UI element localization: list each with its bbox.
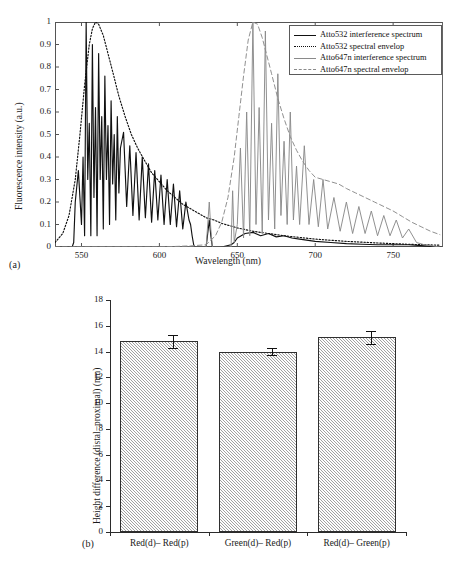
error-cap-0-upper: [168, 335, 178, 336]
panel-a-y-tick: 0.9: [0, 39, 51, 49]
panel-b-y-tick: 2: [0, 500, 103, 510]
bar-0: [120, 341, 198, 532]
panel-b-x-axis-line: [110, 532, 406, 533]
panel-b-y-tickmark: [106, 300, 110, 301]
panel-b-y-tick: 6: [0, 449, 103, 459]
panel-b-y-tick: 4: [0, 474, 103, 484]
panel-a-label: (a): [9, 259, 20, 270]
panel-a-y-tick: 0.8: [0, 61, 51, 71]
panel-a-x-tick: 550: [67, 250, 95, 260]
panel-b-label: (b): [82, 538, 94, 549]
panel-a-y-axis-title: Fluorescence intensity (a.u.): [14, 102, 24, 210]
bar-2: [318, 337, 396, 532]
panel-b-y-tickmark: [106, 326, 110, 327]
panel-a-y-tick: 0.2: [0, 196, 51, 206]
panel-a-y-tick: 0.7: [0, 84, 51, 94]
panel-b-x-tickmark: [209, 532, 210, 536]
bar-1: [219, 352, 297, 532]
error-bar-2: [371, 331, 372, 344]
panel-a-spectra: 00.10.20.30.40.50.60.70.80.91 5506006507…: [0, 0, 456, 272]
panel-b-category-label-1: Green(d)– Red(p): [209, 538, 308, 548]
error-bar-0: [173, 335, 174, 348]
legend-line-solid-gray-icon: [294, 53, 316, 63]
legend-line-dashed-gray-icon: [294, 64, 316, 74]
legend-label-atto647n-envelop: Atto647n spectral envelop: [320, 64, 408, 75]
panel-b-y-tickmark: [106, 403, 110, 404]
legend-item-atto532-envelop: Atto532 spectral envelop: [294, 41, 437, 53]
panel-b-y-tickmark: [106, 506, 110, 507]
panel-b-y-tick: 14: [0, 346, 103, 356]
error-cap-1-upper: [267, 348, 277, 349]
error-cap-2-upper: [366, 331, 376, 332]
panel-a-x-tick: 700: [301, 250, 329, 260]
panel-b-plot-area: [110, 300, 406, 532]
error-cap-2-lower: [366, 344, 376, 345]
panel-a-y-tick: 0.4: [0, 151, 51, 161]
panel-b-bar-chart: 024681012141618 Red(d)– Red(p)Green(d)– …: [0, 272, 456, 568]
panel-a-y-tick: 0.3: [0, 174, 51, 184]
panel-b-y-tickmark: [106, 455, 110, 456]
error-cap-0-lower: [168, 348, 178, 349]
panel-b-y-tick: 18: [0, 294, 103, 304]
panel-b-x-tickmark: [110, 532, 111, 536]
error-cap-1-lower: [267, 355, 277, 356]
panel-b-x-tickmark: [406, 532, 407, 536]
legend-label-atto532-interference: Atto532 interference spectrum: [320, 29, 422, 40]
panel-a-y-tick: 0.5: [0, 129, 51, 139]
legend-item-atto532-interference: Atto532 interference spectrum: [294, 29, 437, 41]
panel-b-category-label-0: Red(d)– Red(p): [110, 538, 209, 548]
panel-a-y-tick: 1: [0, 16, 51, 26]
legend-item-atto647n-interference: Atto647n interference spectrum: [294, 52, 437, 64]
panel-a-x-tick: 600: [145, 250, 173, 260]
panel-a-x-tick: 750: [379, 250, 407, 260]
panel-b-y-tickmark: [106, 377, 110, 378]
panel-a-y-tick: 0.1: [0, 219, 51, 229]
panel-b-x-tickmark: [307, 532, 308, 536]
error-bar-1: [272, 348, 273, 356]
panel-b-y-axis-title: Height difference (distal−proximal) (nm): [92, 368, 102, 524]
panel-a-legend: Atto532 interference spectrum Atto532 sp…: [289, 25, 442, 75]
panel-b-y-tick: 10: [0, 397, 103, 407]
legend-label-atto532-envelop: Atto532 spectral envelop: [320, 41, 404, 52]
figure-container: 00.10.20.30.40.50.60.70.80.91 5506006507…: [0, 0, 456, 568]
panel-a-y-tick: 0: [0, 241, 51, 251]
legend-line-dotted-dark-icon: [294, 41, 316, 51]
panel-b-y-tickmark: [106, 352, 110, 353]
panel-a-y-tick: 0.6: [0, 106, 51, 116]
panel-b-y-tick: 8: [0, 423, 103, 433]
legend-item-atto647n-envelop: Atto647n spectral envelop: [294, 64, 437, 76]
legend-label-atto647n-interference: Atto647n interference spectrum: [320, 52, 427, 63]
legend-line-solid-dark-icon: [294, 30, 316, 40]
panel-b-category-label-2: Red(d)– Green(p): [307, 538, 406, 548]
panel-a-x-axis-title: Wavelength (nm): [195, 256, 261, 266]
panel-b-y-tickmark: [106, 429, 110, 430]
panel-b-y-tick: 16: [0, 320, 103, 330]
panel-b-y-tick: 12: [0, 371, 103, 381]
panel-b-y-tick: 0: [0, 526, 103, 536]
panel-b-y-tickmark: [106, 480, 110, 481]
